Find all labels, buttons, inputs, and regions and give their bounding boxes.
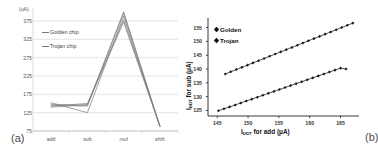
panel-a-y-axis-ticks: 37532527522517512575: [14, 0, 32, 154]
panel-b-x-tick-label: 150: [244, 120, 253, 126]
panel-b-caption: (b): [365, 131, 378, 143]
panel-b-legend-label: Golden: [220, 26, 241, 33]
panel-b-legend-label: Trojan: [220, 37, 239, 44]
panel-b-y-tick-label: 145: [188, 52, 202, 58]
panel-a-legend-swatch: [42, 32, 49, 33]
panel-b-x-tick-label: 160: [305, 120, 314, 126]
panel-b-x-axis-title: IDDT for add (μA): [241, 128, 290, 136]
chart-panel-b: 155150145140135130125 145150155160165 ID…: [183, 0, 367, 154]
panel-b-x-tick-label: 145: [213, 120, 222, 126]
panel-a-x-tick-label: shift: [155, 136, 165, 142]
panel-b-y-title-subscript: DDT: [188, 99, 193, 108]
panel-a-caption: (a): [11, 132, 24, 144]
panel-b-x-tick-label: 155: [275, 120, 284, 126]
panel-a-y-tick-label: 375: [14, 18, 32, 24]
panel-a-y-tick-label: 125: [14, 110, 32, 116]
panel-a-y-tick-label: 325: [14, 36, 32, 42]
panel-b-y-tick-label: 155: [188, 25, 202, 31]
panel-a-x-tick-label: sub: [83, 136, 91, 142]
panel-a-x-tick-label: mul: [119, 136, 127, 142]
panel-a-y-tick-label: 175: [14, 91, 32, 97]
chart-panel-a: (uA) 37532527522517512575 addsubmulshift…: [0, 0, 183, 154]
panel-a-x-tick-label: add: [47, 136, 56, 142]
panel-a-legend-label: Golden chip: [50, 29, 79, 35]
panel-b-y-tick-label: 150: [188, 38, 202, 44]
panel-a-legend-swatch: [42, 46, 49, 47]
panel-a-legend-label: Trojan chip: [50, 43, 76, 49]
panel-b-x-tick-label: 165: [336, 120, 345, 126]
panel-b-x-title-subscript: DDT: [243, 131, 252, 136]
panel-a-y-tick-label: 225: [14, 73, 32, 79]
panel-b-y-axis-title: IDDT for sub (μA): [185, 61, 193, 110]
panel-a-y-tick-label: 275: [14, 55, 32, 61]
panel-b-legend-marker: [213, 26, 220, 33]
panel-b-legend-marker: [213, 37, 220, 44]
